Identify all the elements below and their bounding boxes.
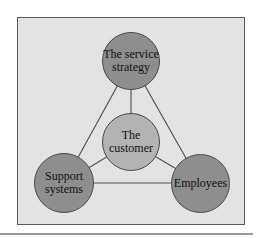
- separator-rule: [0, 233, 253, 235]
- node-support-systems: Support systems: [34, 153, 94, 213]
- node-employees: Employees: [171, 154, 230, 213]
- node-label: The customer: [109, 129, 153, 155]
- node-customer: The customer: [102, 113, 160, 171]
- node-label: The service strategy: [103, 48, 159, 74]
- node-label: Support systems: [45, 170, 83, 196]
- node-service-strategy: The service strategy: [102, 32, 160, 90]
- node-label: Employees: [174, 177, 227, 190]
